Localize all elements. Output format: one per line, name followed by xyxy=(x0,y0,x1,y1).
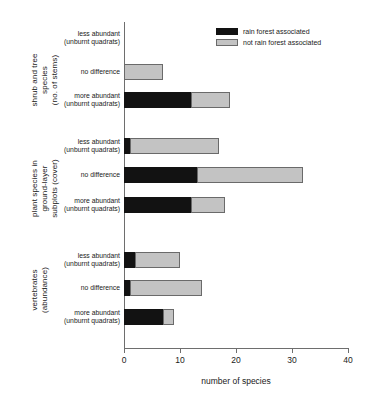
bar-segment-not-rain-forest-associated xyxy=(191,92,230,108)
category-tick-label: less abundant (unburnt quadrats) xyxy=(46,138,120,154)
x-axis-tick-label: 0 xyxy=(109,355,139,365)
bar-segment-not-rain-forest-associated xyxy=(124,64,163,80)
bar-stacked xyxy=(124,64,163,80)
x-axis-tick xyxy=(236,348,237,353)
bar-segment-not-rain-forest-associated xyxy=(163,309,174,325)
bar-stacked xyxy=(124,280,202,296)
category-tick-label: more abundant (unburnt quadrats) xyxy=(46,92,120,108)
category-tick-label: no difference xyxy=(46,171,120,179)
x-axis-tick-label: 30 xyxy=(277,355,307,365)
bar-segment-rain-forest-associated xyxy=(124,92,191,108)
category-tick-label: more abundant (unburnt quadrats) xyxy=(46,309,120,325)
bar-stacked xyxy=(124,197,225,213)
x-axis-tick xyxy=(292,348,293,353)
legend-label: rain forest associated xyxy=(243,28,310,35)
bar-segment-not-rain-forest-associated xyxy=(135,252,180,268)
category-tick-label: more abundant (unburnt quadrats) xyxy=(46,197,120,213)
bar-segment-not-rain-forest-associated xyxy=(197,167,303,183)
x-axis-tick-label: 20 xyxy=(221,355,251,365)
x-axis-tick xyxy=(124,348,125,353)
bar-segment-not-rain-forest-associated xyxy=(130,138,220,154)
bar-stacked xyxy=(124,92,230,108)
bar-stacked xyxy=(124,167,303,183)
legend-item-rain-forest-associated: rain forest associated xyxy=(216,26,321,37)
category-tick-label: less abundant (unburnt quadrats) xyxy=(46,252,120,268)
x-axis-tick-label: 40 xyxy=(333,355,363,365)
chart-legend: rain forest associated not rain forest a… xyxy=(216,26,321,48)
category-tick-label: less abundant (unburnt quadrats) xyxy=(46,30,120,46)
x-axis-tick xyxy=(180,348,181,353)
bar-stacked xyxy=(124,309,174,325)
bar-segment-rain-forest-associated xyxy=(124,197,191,213)
legend-swatch-icon-dark xyxy=(216,28,238,35)
x-axis-tick-label: 10 xyxy=(165,355,195,365)
bar-segment-rain-forest-associated xyxy=(124,167,197,183)
x-axis-tick xyxy=(348,348,349,353)
category-tick-label: no difference xyxy=(46,68,120,76)
chart-figure: number of species rain forest associated… xyxy=(0,0,366,402)
bar-segment-not-rain-forest-associated xyxy=(130,280,203,296)
bar-segment-rain-forest-associated xyxy=(124,309,163,325)
bar-stacked xyxy=(124,252,180,268)
bar-stacked xyxy=(124,138,219,154)
legend-label: not rain forest associated xyxy=(243,39,321,46)
x-axis-title: number of species xyxy=(124,376,348,386)
legend-item-not-rain-forest-associated: not rain forest associated xyxy=(216,37,321,48)
bar-segment-rain-forest-associated xyxy=(124,252,135,268)
legend-swatch-icon-light xyxy=(216,39,238,46)
bar-segment-not-rain-forest-associated xyxy=(191,197,225,213)
category-tick-label: no difference xyxy=(46,284,120,292)
